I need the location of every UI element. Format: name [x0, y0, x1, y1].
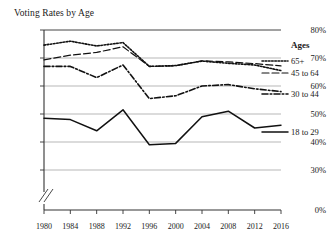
x-tick-label: 1984	[62, 222, 78, 231]
voting-rates-chart: Voting Rates by Age Ages 65+45 to 6430 t…	[0, 0, 332, 241]
axis-break-mark	[44, 189, 53, 202]
x-tick-label: 2012	[247, 222, 263, 231]
legend-label-18-to-29: 18 to 29	[291, 127, 319, 137]
legend-label-45-to-64: 45 to 64	[291, 68, 319, 78]
y-tick-label: 80%	[290, 25, 332, 35]
y-tick-label: 70%	[290, 53, 332, 63]
y-tick-label: 50%	[290, 109, 332, 119]
legend-title: Ages	[291, 40, 310, 50]
series-line-45-to-64	[44, 47, 281, 67]
x-tick-label: 2008	[220, 222, 236, 231]
y-tick-label-zero: 0%	[290, 205, 332, 215]
plot-area	[0, 0, 332, 241]
x-tick-label: 1996	[141, 222, 157, 231]
series-line-18-to-29	[44, 110, 281, 145]
x-tick-label: 2004	[194, 222, 210, 231]
x-tick-label: 1988	[89, 222, 105, 231]
y-tick-label: 40%	[290, 137, 332, 147]
x-tick-label: 1992	[115, 222, 131, 231]
x-tick-label: 1980	[36, 222, 52, 231]
y-tick-label: 60%	[290, 81, 332, 91]
series-line-30-to-44	[44, 65, 281, 99]
x-tick-label: 2000	[168, 222, 184, 231]
y-tick-label: 30%	[290, 165, 332, 175]
x-tick-label: 2016	[273, 222, 289, 231]
